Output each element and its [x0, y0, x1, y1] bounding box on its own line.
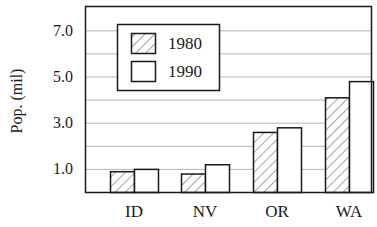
legend: 19801990: [118, 25, 220, 91]
x-category-label: WA: [336, 202, 363, 221]
y-tick-label: 3.0: [53, 114, 73, 131]
y-axis-title: Pop. (mil): [8, 69, 26, 134]
bars: [111, 82, 374, 193]
x-category-label: ID: [125, 202, 143, 221]
bar-chart: 1.03.05.07.0 Pop. (mil) IDNVORWA 1980199…: [0, 0, 377, 227]
x-axis-labels: IDNVORWA: [125, 202, 363, 221]
bar-wa-1990: [350, 82, 374, 193]
x-category-label: NV: [193, 202, 218, 221]
bar-nv-1990: [206, 165, 230, 193]
bar-nv-1980: [182, 174, 206, 192]
bar-wa-1980: [326, 98, 350, 193]
legend-swatch-1980: [132, 34, 156, 54]
x-category-label: OR: [265, 202, 289, 221]
y-tick-label: 7.0: [53, 22, 73, 39]
y-tick-label: 1.0: [53, 160, 73, 177]
y-tick-label: 5.0: [53, 68, 73, 85]
bar-id-1990: [135, 169, 159, 192]
legend-label-1990: 1990: [168, 62, 202, 81]
y-axis-ticks: 1.03.05.07.0: [53, 22, 73, 178]
bar-or-1980: [254, 132, 278, 192]
legend-label-1980: 1980: [168, 34, 202, 53]
bar-id-1980: [111, 172, 135, 193]
bar-or-1990: [278, 128, 302, 193]
legend-swatch-1990: [132, 62, 156, 82]
